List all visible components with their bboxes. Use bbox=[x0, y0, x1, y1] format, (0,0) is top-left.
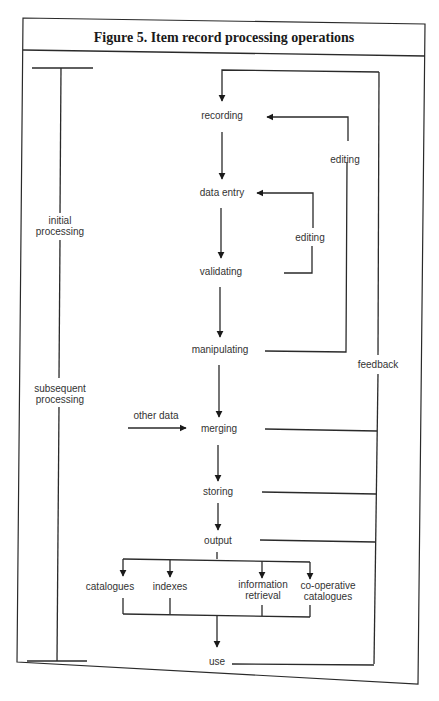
merge-to-use bbox=[123, 598, 310, 647]
output-branches bbox=[123, 552, 310, 579]
step-recording: recording bbox=[201, 110, 243, 121]
step-validating: validating bbox=[200, 266, 242, 277]
output-information-retrieval-1: information bbox=[238, 579, 287, 590]
step-output: output bbox=[204, 535, 232, 546]
step-data-entry: data entry bbox=[200, 187, 244, 198]
loop-label-editing-outer: editing bbox=[330, 154, 359, 165]
input-label-other-data: other data bbox=[133, 410, 178, 421]
phase-label-initial-2: processing bbox=[36, 226, 84, 237]
output-cooperative-catalogues-2: catalogues bbox=[304, 591, 352, 602]
output-indexes: indexes bbox=[153, 581, 187, 592]
loop-label-editing-inner: editing bbox=[295, 232, 324, 243]
output-cooperative-catalogues-1: co-operative bbox=[300, 580, 355, 591]
phase-label-subsequent-2: processing bbox=[36, 394, 84, 405]
figure-title: Figure 5. Item record processing operati… bbox=[94, 30, 355, 45]
phase-bracket bbox=[27, 68, 93, 661]
loop-label-feedback: feedback bbox=[358, 359, 400, 370]
step-merging: merging bbox=[201, 423, 237, 434]
step-use: use bbox=[209, 656, 226, 667]
step-manipulating: manipulating bbox=[192, 344, 249, 355]
phase-label-subsequent-1: subsequent bbox=[34, 383, 86, 394]
title-separator bbox=[23, 50, 425, 56]
step-storing: storing bbox=[203, 486, 233, 497]
output-information-retrieval-2: retrieval bbox=[245, 590, 281, 601]
output-catalogues: catalogues bbox=[86, 581, 134, 592]
phase-label-initial-1: initial bbox=[49, 215, 72, 226]
diagram-canvas: Figure 5. Item record processing operati… bbox=[0, 0, 439, 701]
